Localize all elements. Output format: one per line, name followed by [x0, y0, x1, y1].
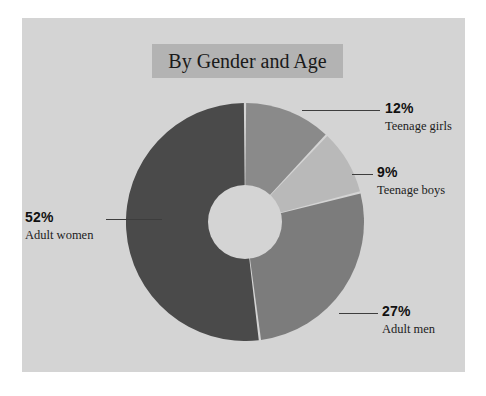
- donut-chart-svg: [126, 103, 364, 341]
- page-title: By Gender and Age: [152, 44, 343, 78]
- chart-figure: By Gender and Age 12% Teenage girls 9% T…: [0, 0, 486, 396]
- leader-line-teenage-boys: [352, 174, 373, 175]
- callout-teenage-girls: 12% Teenage girls: [385, 100, 452, 134]
- leader-line-teenage-girls: [302, 110, 380, 111]
- callout-value-adult-men: 27%: [382, 303, 435, 319]
- callout-value-teenage-girls: 12%: [385, 100, 452, 116]
- callout-value-adult-women: 52%: [25, 209, 93, 225]
- callout-adult-women: 52% Adult women: [25, 209, 93, 243]
- callout-label-teenage-boys: Teenage boys: [377, 182, 445, 198]
- title-band: By Gender and Age: [152, 44, 343, 78]
- leader-line-adult-women: [106, 219, 162, 220]
- callout-value-teenage-boys: 9%: [377, 164, 445, 180]
- callout-label-adult-women: Adult women: [25, 227, 93, 243]
- callout-teenage-boys: 9% Teenage boys: [377, 164, 445, 198]
- callout-adult-men: 27% Adult men: [382, 303, 435, 337]
- callout-label-teenage-girls: Teenage girls: [385, 118, 452, 134]
- donut-hole: [208, 185, 282, 259]
- leader-line-adult-men: [339, 313, 378, 314]
- callout-label-adult-men: Adult men: [382, 321, 435, 337]
- donut-chart: [126, 103, 364, 341]
